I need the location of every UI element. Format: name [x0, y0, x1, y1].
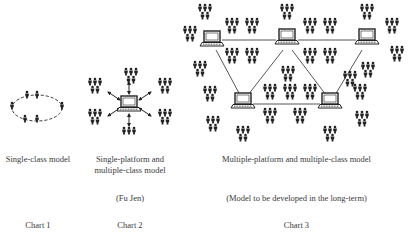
- laptop-icon: [117, 96, 141, 111]
- chart2-title-line1: Single-platform and: [80, 154, 180, 165]
- chart3-label: Chart 3: [185, 220, 408, 231]
- chart2-label: Chart 2: [80, 220, 180, 231]
- chart2-title-line2: multiple-class model: [80, 165, 180, 176]
- chart3-title: Multiple-platform and multiple-class mod…: [185, 154, 408, 165]
- network-models-diagram: [0, 0, 408, 240]
- chart2-title: Single-platform and multiple-class model: [80, 154, 180, 176]
- chart3-note: (Model to be developed in the long-term): [185, 193, 408, 204]
- chart2-note: (Fu Jen): [80, 193, 180, 204]
- chart1-ring: [10, 91, 64, 123]
- chart1-title: Single-class model: [0, 154, 76, 165]
- chart1-label: Chart 1: [0, 220, 76, 231]
- chart3-persons: [183, 4, 404, 142]
